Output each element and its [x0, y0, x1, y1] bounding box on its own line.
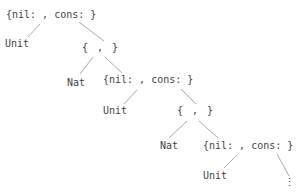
node-record-1-label: {nil: , cons: } — [6, 8, 96, 21]
tree-edges — [0, 0, 303, 194]
node-pair-1-label: { , } — [82, 41, 120, 54]
node-ellipsis-label: ⋮ — [284, 176, 295, 189]
tree-edge-record-2-to-pair-2 — [181, 89, 196, 104]
tree-edge-pair-2-to-nat-2 — [169, 121, 187, 138]
node-record-3-label: {nil: , cons: } — [203, 139, 293, 152]
node-nat-1-label: Nat — [67, 76, 85, 89]
node-unit-3-label: Unit — [203, 169, 227, 182]
tree-edge-record-3-to-unit-3 — [224, 155, 237, 168]
tree-edge-record-1-to-unit-1 — [28, 24, 40, 37]
tree-edge-record-3-to-ellipsis — [277, 154, 289, 176]
tree-edge-pair-1-to-record-2 — [105, 57, 122, 73]
tree-diagram: {nil: , cons: }Unit{ , }Nat{nil: , cons:… — [0, 0, 303, 194]
tree-edge-record-1-to-pair-1 — [79, 22, 104, 41]
tree-edge-pair-2-to-record-3 — [199, 121, 218, 138]
node-nat-2-label: Nat — [160, 139, 178, 152]
tree-edge-record-2-to-unit-2 — [124, 90, 137, 104]
tree-edge-pair-1-to-nat-1 — [80, 57, 93, 74]
node-record-2-label: {nil: , cons: } — [103, 73, 193, 86]
node-unit-1-label: Unit — [5, 37, 29, 50]
node-pair-2-label: { , } — [177, 104, 215, 117]
node-unit-2-label: Unit — [103, 104, 127, 117]
